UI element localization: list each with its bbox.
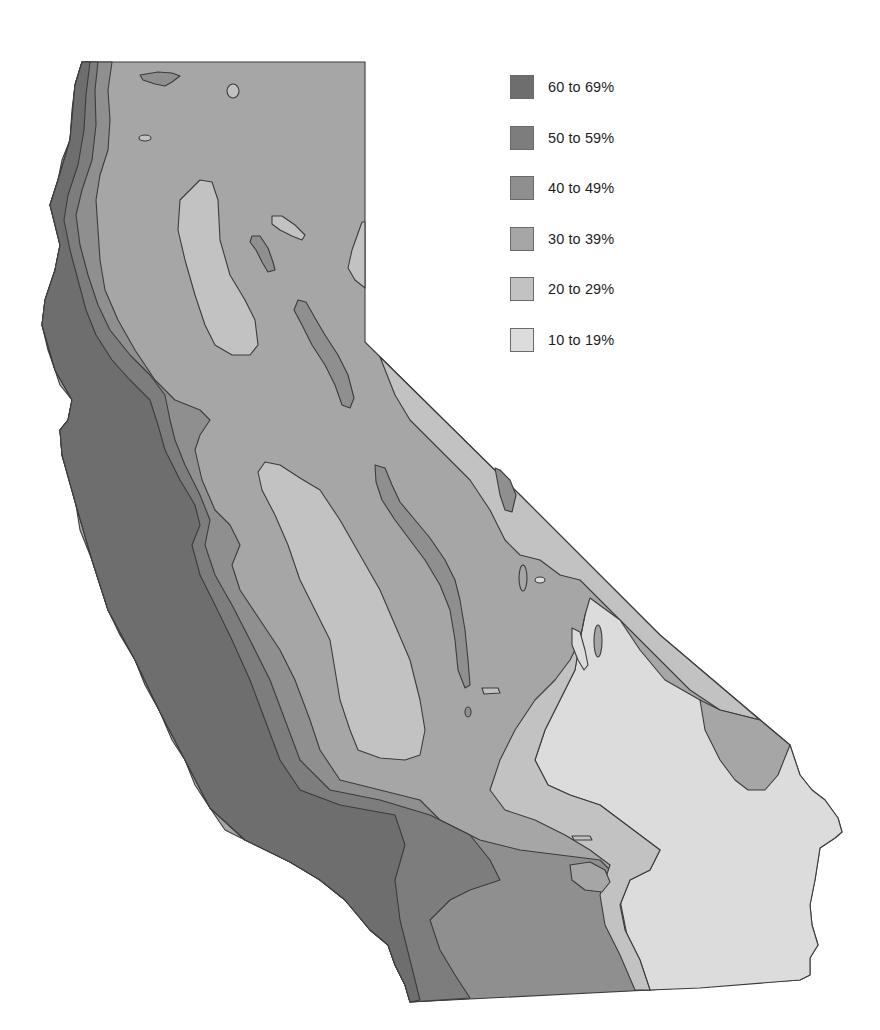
legend-label: 60 to 69% <box>548 79 614 95</box>
legend-item-30-39: 30 to 39% <box>510 214 614 265</box>
legend-label: 10 to 19% <box>548 332 614 348</box>
island-20-29-i <box>482 688 500 694</box>
island-10-19-f <box>535 577 545 583</box>
legend-swatch <box>510 176 534 200</box>
legend: 60 to 69% 50 to 59% 40 to 49% 30 to 39% … <box>510 62 614 365</box>
island-20-29-a <box>227 84 239 98</box>
legend-swatch <box>510 328 534 352</box>
legend-label: 30 to 39% <box>548 231 614 247</box>
island-30-39-e <box>519 565 527 591</box>
legend-item-50-59: 50 to 59% <box>510 113 614 164</box>
legend-item-40-49: 40 to 49% <box>510 163 614 214</box>
legend-swatch <box>510 227 534 251</box>
legend-item-20-29: 20 to 29% <box>510 264 614 315</box>
island-30-39-h <box>594 625 602 657</box>
legend-label: 50 to 59% <box>548 130 614 146</box>
island-40-49-j <box>465 707 471 717</box>
california-map <box>0 0 880 1030</box>
south-sliver-20-29 <box>572 836 592 840</box>
legend-item-10-19: 10 to 19% <box>510 315 614 366</box>
legend-label: 20 to 29% <box>548 281 614 297</box>
island-20-29-b <box>139 135 151 141</box>
legend-swatch <box>510 75 534 99</box>
legend-swatch <box>510 277 534 301</box>
legend-item-60-69: 60 to 69% <box>510 62 614 113</box>
legend-label: 40 to 49% <box>548 180 614 196</box>
legend-swatch <box>510 126 534 150</box>
